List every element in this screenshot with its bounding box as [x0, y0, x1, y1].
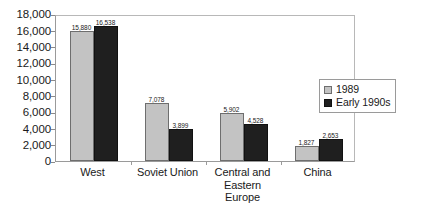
- y-axis: 18,00016,00014,00012,00010,0008,0006,000…: [0, 15, 55, 162]
- bar-chart: 18,00016,00014,00012,00010,0008,0006,000…: [0, 0, 423, 217]
- bar: 4,528: [244, 124, 268, 161]
- legend-item-1989: 1989: [324, 83, 390, 96]
- bar: 1,827: [295, 146, 319, 161]
- legend-label-early-1990s: Early 1990s: [336, 97, 390, 108]
- bar: 7,078: [145, 103, 169, 161]
- bar-value-label: 16,538: [96, 19, 115, 26]
- x-axis-category-label: Soviet Union: [130, 166, 205, 179]
- x-axis-category-label: West: [55, 166, 130, 179]
- chart-legend: 1989 Early 1990s: [319, 79, 396, 113]
- bar-pair: 7,0783,899: [131, 16, 206, 161]
- legend-label-1989: 1989: [336, 84, 359, 95]
- y-axis-tick-label: 18,000: [16, 9, 55, 21]
- x-axis-tick-mark: [206, 161, 207, 165]
- bar-group: 7,0783,899: [131, 16, 206, 161]
- bars-layer: 15,88016,5387,0783,8995,9024,5281,8272,6…: [56, 16, 354, 161]
- scan-artifact: [10, 190, 340, 202]
- y-axis-tick-label: 16,000: [16, 26, 55, 38]
- bar-group: 15,88016,538: [56, 16, 131, 161]
- bar-pair: 5,9024,528: [206, 16, 281, 161]
- legend-swatch-1989-icon: [324, 86, 332, 94]
- x-axis-tick-mark: [131, 161, 132, 165]
- y-axis-tick-label: 12,000: [16, 58, 55, 70]
- bar: 15,880: [70, 31, 94, 161]
- bar: 3,899: [169, 129, 193, 161]
- bar-value-label: 3,899: [173, 122, 189, 129]
- x-axis-category-label: China: [280, 166, 355, 179]
- bar-value-label: 4,528: [248, 117, 264, 124]
- bar-value-label: 1,827: [299, 139, 315, 146]
- bar-pair: 15,88016,538: [56, 16, 131, 161]
- plot-area: 15,88016,5387,0783,8995,9024,5281,8272,6…: [55, 15, 355, 162]
- legend-swatch-early-1990s-icon: [324, 99, 332, 107]
- legend-item-early-1990s: Early 1990s: [324, 96, 390, 109]
- bar-group: 5,9024,528: [206, 16, 281, 161]
- bar: 2,653: [319, 139, 343, 161]
- bar-value-label: 2,653: [323, 132, 339, 139]
- x-axis-tick-mark: [281, 161, 282, 165]
- y-axis-tick-label: 10,000: [16, 75, 55, 87]
- bar: 5,902: [220, 113, 244, 161]
- y-axis-tick-label: 14,000: [16, 42, 55, 54]
- bar-value-label: 5,902: [224, 106, 240, 113]
- bar-value-label: 15,880: [72, 24, 91, 31]
- bar: 16,538: [94, 26, 118, 161]
- bar-value-label: 7,078: [149, 96, 165, 103]
